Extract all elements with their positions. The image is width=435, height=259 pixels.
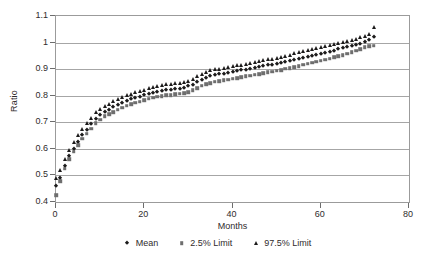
data-point xyxy=(257,59,261,63)
data-point xyxy=(213,80,217,84)
data-point xyxy=(372,44,376,48)
x-tick-mark xyxy=(408,203,409,208)
data-point xyxy=(288,53,292,57)
data-point xyxy=(138,89,142,93)
data-point xyxy=(244,75,248,79)
x-tick-label: 40 xyxy=(226,210,236,219)
data-point xyxy=(363,34,367,38)
data-point xyxy=(90,127,94,131)
data-point xyxy=(208,68,212,72)
data-point xyxy=(257,72,261,76)
data-point xyxy=(217,67,221,71)
data-point xyxy=(156,95,160,99)
data-point xyxy=(239,63,243,67)
data-point xyxy=(116,108,120,112)
y-tick-label: 1 xyxy=(43,37,48,46)
data-point xyxy=(160,94,164,98)
data-point xyxy=(54,176,58,180)
data-point xyxy=(112,110,116,114)
data-point xyxy=(103,104,107,108)
data-point xyxy=(363,46,367,50)
data-point xyxy=(173,93,177,97)
data-point xyxy=(359,47,363,51)
data-point xyxy=(323,58,327,62)
x-tick-label: 80 xyxy=(403,210,413,219)
gridline xyxy=(56,122,409,123)
x-tick-mark xyxy=(55,203,56,208)
data-point xyxy=(133,90,137,94)
data-point xyxy=(226,78,230,82)
data-point xyxy=(129,102,133,106)
data-point xyxy=(155,84,159,88)
triangle-marker-icon xyxy=(252,240,259,247)
data-point xyxy=(80,127,84,131)
data-point xyxy=(244,62,248,66)
data-point xyxy=(151,96,155,100)
data-point xyxy=(169,93,173,97)
data-point xyxy=(328,57,332,61)
data-point xyxy=(284,67,288,71)
x-tick-label: 0 xyxy=(52,210,57,219)
data-point xyxy=(94,121,98,125)
data-point xyxy=(182,80,186,84)
data-point xyxy=(120,106,124,110)
data-point xyxy=(200,84,204,88)
data-point xyxy=(186,79,190,83)
data-point xyxy=(54,183,59,188)
data-point xyxy=(58,168,62,172)
y-axis-ticks: 0.40.50.60.70.80.911.1 xyxy=(0,15,55,203)
x-axis-title: Months xyxy=(55,221,410,231)
data-point xyxy=(204,82,208,86)
data-point xyxy=(266,71,270,75)
data-point xyxy=(169,82,173,86)
data-point xyxy=(103,115,107,119)
data-point xyxy=(94,110,98,114)
data-point xyxy=(319,45,323,49)
data-point xyxy=(160,83,164,87)
data-point xyxy=(306,48,310,52)
data-point xyxy=(323,44,327,48)
y-tick-label: 0.7 xyxy=(35,117,48,126)
y-tick-label: 0.9 xyxy=(35,64,48,73)
data-point xyxy=(310,61,314,65)
data-point xyxy=(350,50,354,54)
x-tick-label: 60 xyxy=(315,210,325,219)
data-point xyxy=(279,55,283,59)
data-point xyxy=(195,86,199,90)
data-point xyxy=(275,56,279,60)
data-point xyxy=(288,66,292,70)
data-point xyxy=(129,92,133,96)
chart-figure: Ratio 0.40.50.60.70.80.911.1 020406080 M… xyxy=(0,0,435,259)
y-tick-label: 0.8 xyxy=(35,90,48,99)
gridline xyxy=(56,175,409,176)
data-point xyxy=(350,38,354,42)
legend-label: 2.5% Limit xyxy=(190,238,232,248)
data-point xyxy=(125,93,129,97)
x-tick-mark xyxy=(320,203,321,208)
data-point xyxy=(178,92,182,96)
legend-item: Mean xyxy=(124,238,159,248)
data-point xyxy=(328,43,332,47)
data-point xyxy=(54,194,58,198)
square-marker-icon xyxy=(178,240,185,247)
data-point xyxy=(306,62,310,66)
data-point xyxy=(85,121,89,125)
data-point xyxy=(235,63,239,67)
data-point xyxy=(297,64,301,68)
data-point xyxy=(191,89,195,93)
data-point xyxy=(315,60,319,64)
data-point xyxy=(63,157,67,161)
y-tick-label: 0.5 xyxy=(35,170,48,179)
data-point xyxy=(367,32,371,36)
x-tick-mark xyxy=(232,203,233,208)
data-point xyxy=(275,69,279,73)
data-point xyxy=(120,95,124,99)
data-point xyxy=(319,59,323,63)
data-point xyxy=(336,41,340,45)
data-point xyxy=(89,116,93,120)
x-tick-mark xyxy=(143,203,144,208)
data-point xyxy=(332,42,336,46)
data-point xyxy=(222,79,226,83)
data-point xyxy=(165,94,169,98)
data-point xyxy=(173,81,177,85)
